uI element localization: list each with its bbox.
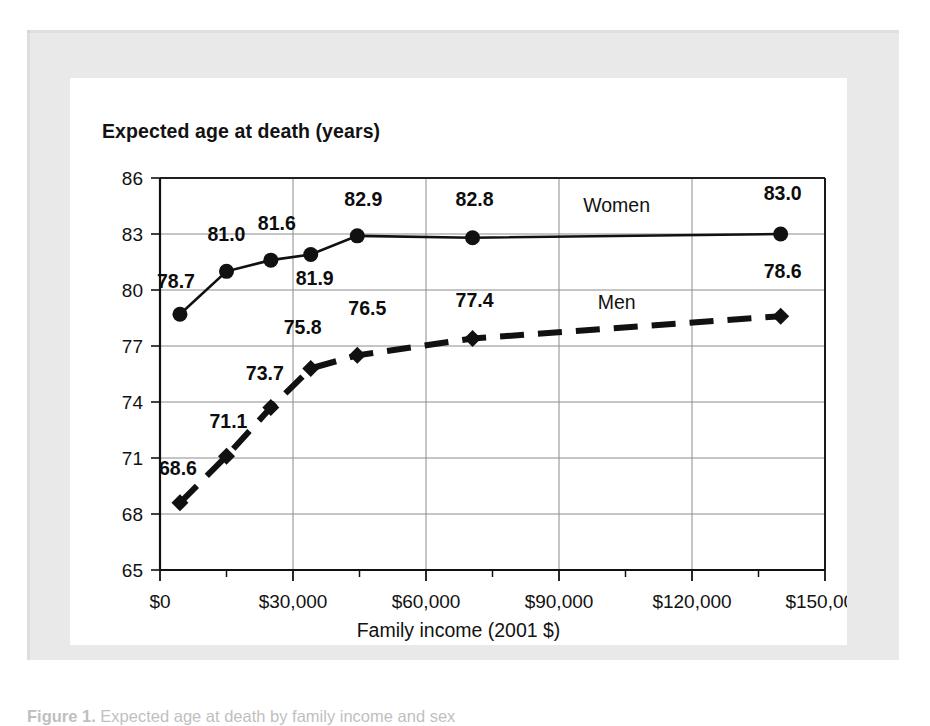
- x-axis-tick-label: $150,000: [785, 591, 847, 612]
- chart-plot-area: 6568717477808386 $0$30,000$60,000$90,000…: [70, 78, 847, 645]
- data-point-label: 81.9: [296, 267, 334, 289]
- y-axis-tick-label: 65: [122, 560, 143, 581]
- data-marker-diamond: [349, 347, 366, 364]
- data-marker-circle: [263, 253, 278, 268]
- data-point-label: 77.4: [456, 289, 494, 311]
- data-point-labels: 78.781.081.681.982.982.883.068.671.173.7…: [157, 182, 802, 479]
- series-name-label: Men: [598, 291, 636, 313]
- x-axis-tick-label: $30,000: [259, 591, 328, 612]
- data-marker-circle: [303, 247, 318, 262]
- data-point-label: 82.9: [344, 188, 382, 210]
- data-point-label: 71.1: [210, 410, 248, 432]
- data-point-label: 73.7: [246, 362, 284, 384]
- data-marker-circle: [172, 307, 187, 322]
- data-point-label: 76.5: [348, 297, 386, 319]
- series-annotations: WomenMen: [583, 194, 650, 313]
- data-marker-diamond: [302, 360, 319, 377]
- data-point-label: 83.0: [764, 182, 802, 204]
- data-marker-circle: [465, 230, 480, 245]
- data-marker-circle: [219, 264, 234, 279]
- y-axis-tick-label: 80: [122, 280, 143, 301]
- y-axis-tick-labels: 6568717477808386: [122, 168, 144, 581]
- chart-card: Expected age at death (years) 6568717477…: [70, 78, 847, 645]
- y-axis-tick-label: 77: [122, 336, 143, 357]
- figure-outer-frame: Expected age at death (years) 6568717477…: [27, 30, 899, 660]
- x-axis-tick-label: $60,000: [392, 591, 461, 612]
- data-point-label: 78.6: [764, 260, 802, 282]
- data-point-label: 75.8: [284, 316, 322, 338]
- x-axis-tick-labels: $0$30,000$60,000$90,000$120,000$150,000: [149, 591, 847, 612]
- data-marker-circle: [773, 227, 788, 242]
- data-point-label: 81.6: [258, 212, 296, 234]
- y-axis-tick-label: 71: [122, 448, 143, 469]
- x-axis-tick-label: $90,000: [525, 591, 594, 612]
- x-axis-tick-label: $0: [149, 591, 170, 612]
- y-axis-tick-label: 86: [122, 168, 143, 189]
- data-marker-diamond: [464, 330, 481, 347]
- data-point-label: 68.6: [159, 457, 197, 479]
- data-point-label: 82.8: [456, 188, 494, 210]
- figure-caption-label: Figure 1.: [27, 707, 96, 725]
- x-axis-title: Family income (2001 $): [70, 619, 847, 642]
- y-axis-tick-label: 68: [122, 504, 143, 525]
- data-marker-diamond: [772, 308, 789, 325]
- data-point-label: 78.7: [157, 270, 195, 292]
- figure-caption-text: Expected age at death by family income a…: [100, 707, 455, 725]
- series-name-label: Women: [583, 194, 650, 216]
- y-axis-tick-label: 74: [122, 392, 144, 413]
- y-axis-tick-label: 83: [122, 224, 143, 245]
- data-marker-circle: [350, 228, 365, 243]
- figure-caption: Figure 1. Expected age at death by famil…: [27, 707, 907, 726]
- data-point-label: 81.0: [208, 223, 246, 245]
- x-axis-tick-label: $120,000: [652, 591, 731, 612]
